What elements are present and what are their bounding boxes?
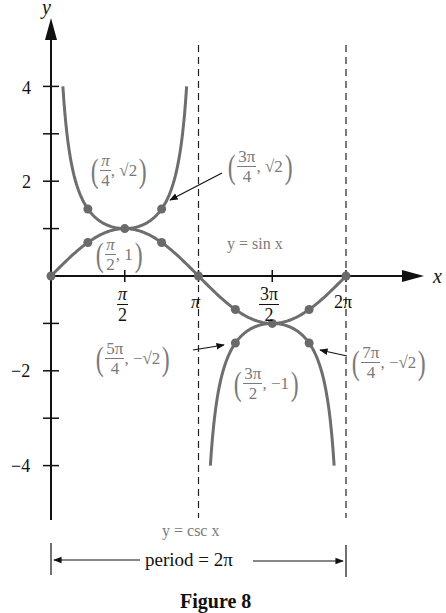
ann-num: π <box>105 236 116 255</box>
ann-num: π <box>100 152 111 171</box>
y-axis-label: y <box>42 0 51 19</box>
data-point <box>83 238 92 247</box>
figure-caption: Figure 8 <box>180 590 251 613</box>
data-point <box>120 224 129 233</box>
y-tick-label-4: 4 <box>22 78 31 99</box>
period-label: period = 2π <box>145 549 233 571</box>
ann-num: 5π <box>105 340 124 359</box>
x-tick-label-3pi-over-2: 3π2 <box>259 285 279 324</box>
annotation-5pi4-neg-sqrt2: (5π4, −√2) <box>94 340 172 377</box>
data-point <box>231 339 240 348</box>
annotation-3pi2-neg1: (3π2, −1) <box>232 365 300 402</box>
x-tick-label-pi-over-2: π2 <box>117 285 128 324</box>
data-point <box>194 272 203 281</box>
tick-num: π <box>117 285 128 305</box>
ann-rest: , −1 <box>262 374 289 394</box>
y-axis-arrow-icon <box>45 18 57 40</box>
ann-rest: , −√2 <box>124 349 160 369</box>
sin-curve-label: y = sin x <box>227 235 283 253</box>
leader-arrow-5pi4 <box>193 345 224 350</box>
ann-den: 2 <box>106 255 115 273</box>
x-tick-label-2pi: 2π <box>334 292 352 313</box>
x-tick-label-pi: π <box>191 292 200 313</box>
ann-rest: , −√2 <box>380 353 416 373</box>
annotation-pi4-sqrt2: (π4, √2) <box>89 152 149 189</box>
ann-rest: , √2 <box>111 161 137 181</box>
ann-den: 4 <box>243 167 252 185</box>
ann-num: 3π <box>243 365 262 384</box>
y-tick-label-neg2: −2 <box>11 361 30 382</box>
data-point <box>231 305 240 314</box>
tick-den: 2 <box>265 305 274 324</box>
ann-num: 3π <box>237 148 256 167</box>
data-point <box>83 204 92 213</box>
ann-den: 4 <box>367 363 376 381</box>
ann-rest: , 1 <box>116 245 133 265</box>
tick-num: 3π <box>259 285 279 305</box>
ann-den: 4 <box>101 171 110 189</box>
annotation-leader-arrows <box>170 173 347 356</box>
ann-rest: , √2 <box>256 157 282 177</box>
y-tick-label-2: 2 <box>22 172 31 193</box>
y-tick-label-neg4: −4 <box>11 456 30 477</box>
data-point <box>305 305 314 314</box>
ann-den: 2 <box>249 384 258 402</box>
annotation-3pi4-sqrt2: (3π4, √2) <box>226 148 294 185</box>
leader-arrow-7pi4 <box>320 350 347 356</box>
data-point <box>157 238 166 247</box>
data-point <box>157 204 166 213</box>
data-point <box>47 272 56 281</box>
ann-num: 7π <box>361 344 380 363</box>
csc-curve-label: y = csc x <box>162 522 219 540</box>
annotation-pi2-1: (π2, 1) <box>94 236 144 273</box>
tick-den: 2 <box>118 305 127 324</box>
data-point <box>342 272 351 281</box>
data-point <box>305 339 314 348</box>
ann-den: 4 <box>111 359 120 377</box>
leader-arrow-3pi4 <box>170 173 222 200</box>
x-axis-arrow-icon <box>402 270 424 282</box>
annotation-7pi4-neg-sqrt2: (7π4, −√2) <box>350 344 428 381</box>
x-axis-label: x <box>433 265 442 288</box>
